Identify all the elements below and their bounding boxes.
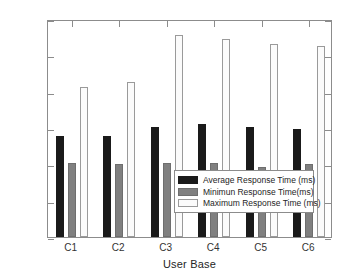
bar xyxy=(115,164,123,237)
y-tick-mark xyxy=(48,130,54,131)
y-tick-mark-right xyxy=(325,57,331,58)
response-time-bar-chart: Response Time (ms) User Base 02040608010… xyxy=(0,0,346,279)
x-tick-label: C5 xyxy=(241,242,281,253)
y-tick-mark-right xyxy=(325,203,331,204)
x-tick-mark-top xyxy=(214,21,215,27)
legend-item: Average Response Time (ms) xyxy=(178,175,309,186)
legend-label: Minimun Response Time(ms) xyxy=(203,187,314,197)
x-tick-label: C2 xyxy=(98,242,138,253)
bar xyxy=(56,136,64,237)
x-tick-mark-top xyxy=(167,21,168,27)
bar xyxy=(103,136,111,237)
x-tick-label: C4 xyxy=(193,242,233,253)
y-tick-mark xyxy=(48,94,54,95)
bar xyxy=(163,163,171,237)
y-tick-mark xyxy=(48,239,54,240)
x-tick-label: C3 xyxy=(146,242,186,253)
x-tick-mark-top xyxy=(309,21,310,27)
legend-swatch xyxy=(178,188,198,196)
y-tick-mark xyxy=(48,203,54,204)
x-tick-mark-top xyxy=(262,21,263,27)
x-tick-mark-top xyxy=(119,21,120,27)
x-tick-mark-top xyxy=(72,21,73,27)
bar xyxy=(127,82,135,237)
legend-swatch xyxy=(178,176,198,184)
x-tick-label: C6 xyxy=(288,242,328,253)
y-tick-mark-right xyxy=(325,130,331,131)
bar xyxy=(80,87,88,237)
legend-label: Average Response Time (ms) xyxy=(203,175,315,185)
y-tick-mark xyxy=(48,166,54,167)
chart-legend: Average Response Time (ms)Minimun Respon… xyxy=(174,170,314,213)
bar xyxy=(68,163,76,237)
bar xyxy=(317,46,325,237)
y-tick-mark xyxy=(48,57,54,58)
x-axis-title: User Base xyxy=(47,258,332,270)
legend-label: Maximum Response Time (ms) xyxy=(203,198,321,208)
legend-item: Minimun Response Time(ms) xyxy=(178,186,309,197)
y-tick-mark-right xyxy=(325,239,331,240)
y-tick-mark-right xyxy=(325,166,331,167)
legend-item: Maximum Response Time (ms) xyxy=(178,198,309,209)
y-tick-mark-right xyxy=(325,21,331,22)
legend-swatch xyxy=(178,199,198,207)
bar xyxy=(151,127,159,237)
x-tick-label: C1 xyxy=(51,242,91,253)
y-tick-mark-right xyxy=(325,94,331,95)
y-tick-mark xyxy=(48,21,54,22)
